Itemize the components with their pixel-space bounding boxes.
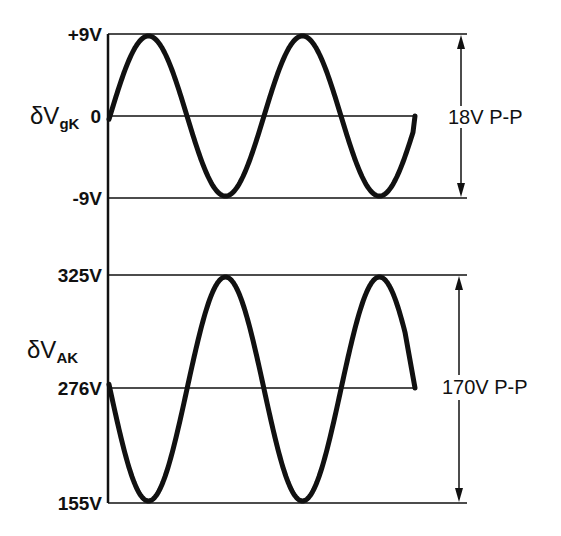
anode-voltage-sine-wave: [109, 277, 415, 501]
upper-span-label: 18V P-P: [448, 106, 522, 128]
lower-quantity-label: δVAK: [27, 336, 78, 366]
upper-quantity-subscript: gK: [59, 115, 79, 132]
upper-quantity-symbol: δV: [30, 102, 59, 129]
arrowhead-down-icon: [455, 488, 463, 502]
upper-tick-top: +9V: [68, 24, 103, 45]
arrowhead-down-icon: [457, 183, 465, 197]
lower-quantity-subscript: AK: [56, 349, 78, 366]
upper-quantity-label: δVgK: [30, 102, 80, 132]
lower-quantity-symbol: δV: [27, 336, 56, 363]
lower-plot: 325V 276V 155V δVAK 170V P-P: [27, 265, 528, 514]
lower-tick-top: 325V: [58, 265, 103, 286]
lower-tick-middle: 276V: [58, 378, 103, 399]
lower-span-label: 170V P-P: [442, 376, 528, 398]
upper-tick-middle: 0: [90, 106, 101, 127]
upper-plot: +9V 0 -9V δVgK 18V P-P: [30, 24, 522, 209]
arrowhead-up-icon: [457, 35, 465, 49]
upper-tick-bottom: -9V: [72, 188, 102, 209]
arrowhead-up-icon: [455, 276, 463, 290]
waveform-diagram: +9V 0 -9V δVgK 18V P-P 325V 276V 155V δV…: [0, 0, 561, 536]
lower-tick-bottom: 155V: [58, 493, 103, 514]
